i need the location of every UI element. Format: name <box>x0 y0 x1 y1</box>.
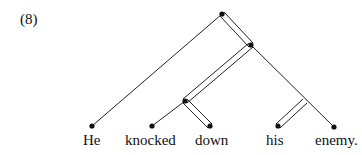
node-root <box>219 11 224 16</box>
word-down: down <box>195 133 228 148</box>
word-he: He <box>83 133 101 148</box>
node-he <box>89 123 94 128</box>
node-down <box>207 123 212 128</box>
word-knocked: knocked <box>125 133 176 148</box>
edge-vp-vprt-a <box>183 43 249 99</box>
word-enemy: enemy. <box>315 133 358 148</box>
edge-np-his-b <box>280 103 307 128</box>
edge-vprt-down-b <box>187 99 212 124</box>
node-his <box>275 123 280 128</box>
edge-np-his-a <box>276 99 303 124</box>
edge-vp-vprt-b <box>187 47 253 103</box>
edge-root-vp-b <box>224 12 253 43</box>
tree-diagram <box>0 0 362 155</box>
edge-vprt-down-a <box>183 103 208 128</box>
node-verb-particle <box>182 98 187 103</box>
edge-root-he <box>92 14 222 126</box>
edge-vprt-knocked <box>152 101 185 126</box>
node-vp <box>248 42 253 47</box>
node-enemy <box>331 124 336 129</box>
edge-root-vp-a <box>220 16 249 47</box>
node-knocked <box>149 123 154 128</box>
word-his: his <box>266 133 284 148</box>
edge-vp-enemy <box>251 45 334 127</box>
